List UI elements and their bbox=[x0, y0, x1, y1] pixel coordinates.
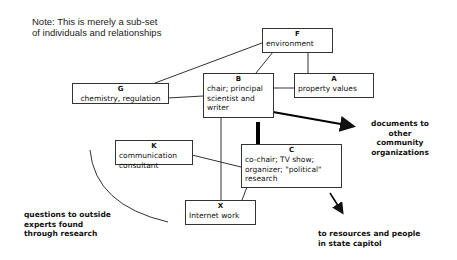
label-state-capitol: to resources and people in state capitol bbox=[318, 229, 448, 248]
note-text: Note: This is merely a sub-set of indivi… bbox=[32, 16, 161, 38]
label-documents-line-1: documents to bbox=[360, 119, 440, 129]
node-f-line-1: environment bbox=[266, 39, 314, 48]
label-documents-line-3: community bbox=[360, 138, 440, 148]
edge-b-documents bbox=[273, 112, 352, 126]
label-questions-line-2: experts found bbox=[24, 220, 144, 230]
label-questions-line-1: questions to outside bbox=[24, 210, 144, 220]
node-b-id: B bbox=[207, 75, 270, 84]
label-questions-line-3: through research bbox=[24, 229, 144, 239]
edge-c-state bbox=[330, 193, 342, 212]
node-x: X Internet work bbox=[185, 200, 256, 225]
edge-g-b bbox=[168, 96, 203, 98]
node-b: B chair; principal scientist and writer bbox=[203, 73, 274, 118]
node-f-id: F bbox=[266, 30, 329, 39]
node-c: C co-chair; TV show; organizer; "politic… bbox=[241, 144, 342, 188]
node-c-line-3: research bbox=[245, 174, 338, 184]
label-state-line-2: in state capitol bbox=[318, 239, 448, 249]
label-state-line-1: to resources and people bbox=[318, 229, 448, 239]
node-a-line-1: property values bbox=[298, 84, 357, 93]
label-documents-line-4: organizations bbox=[360, 148, 440, 158]
node-c-line-2: organizer; "political" bbox=[245, 165, 338, 175]
label-documents-line-2: other bbox=[360, 129, 440, 139]
node-b-line-3: writer bbox=[207, 103, 270, 113]
label-questions: questions to outside experts found throu… bbox=[24, 210, 144, 239]
node-c-id: C bbox=[245, 146, 338, 155]
edge-k-c bbox=[192, 155, 241, 167]
note-line-2: of individuals and relationships bbox=[32, 27, 161, 38]
node-x-line-1: Internet work bbox=[189, 211, 239, 220]
node-a-id: A bbox=[298, 75, 370, 84]
edge-c-x bbox=[242, 187, 247, 200]
node-g-id: G bbox=[76, 85, 165, 94]
node-b-line-1: chair; principal bbox=[207, 84, 270, 94]
label-documents: documents to other community organizatio… bbox=[360, 119, 440, 157]
node-k: K communication consultant bbox=[115, 140, 193, 165]
node-b-line-2: scientist and bbox=[207, 94, 270, 104]
edge-b-f bbox=[256, 52, 273, 73]
node-g: G chemistry, regulation bbox=[72, 83, 169, 104]
node-x-id: X bbox=[189, 202, 252, 211]
node-c-line-1: co-chair; TV show; bbox=[245, 155, 338, 165]
note-line-1: Note: This is merely a sub-set bbox=[32, 16, 161, 27]
node-k-id: K bbox=[119, 142, 189, 151]
node-a: A property values bbox=[294, 73, 374, 98]
node-k-line-2: consultant bbox=[119, 161, 189, 171]
node-f: F environment bbox=[262, 28, 333, 53]
node-k-line-1: communication bbox=[119, 151, 189, 161]
node-g-line-1: chemistry, regulation bbox=[80, 94, 160, 103]
